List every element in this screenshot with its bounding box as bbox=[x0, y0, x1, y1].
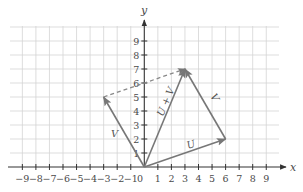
x-tick-label: 9 bbox=[263, 173, 269, 184]
x-tick-label: −6 bbox=[56, 173, 70, 184]
y-tick-label: 6 bbox=[133, 78, 139, 89]
x-tick-label: 2 bbox=[168, 173, 174, 184]
x-tick-label: −7 bbox=[42, 173, 56, 184]
x-tick-label: 1 bbox=[155, 173, 161, 184]
x-tick-label: 6 bbox=[223, 173, 229, 184]
x-tick-label: 8 bbox=[250, 173, 256, 184]
vector-addition-diagram: −9−8−7−6−5−4−3−2−1123456789123456789 x y… bbox=[0, 0, 303, 192]
x-tick-label: 7 bbox=[236, 173, 242, 184]
y-tick-label: 3 bbox=[133, 120, 139, 131]
y-tick-label: 8 bbox=[133, 50, 139, 61]
y-tick-label: 4 bbox=[133, 106, 139, 117]
x-tick-label: −9 bbox=[15, 173, 29, 184]
y-tick-label: 5 bbox=[133, 92, 139, 103]
x-tick-label: 4 bbox=[195, 173, 201, 184]
x-tick-label: 3 bbox=[182, 173, 188, 184]
x-tick-label: −1 bbox=[124, 173, 138, 184]
x-tick-label: −5 bbox=[70, 173, 84, 184]
vector-label-v-translated: V bbox=[208, 92, 222, 105]
y-tick-label: 7 bbox=[133, 64, 139, 75]
x-tick-label: −8 bbox=[29, 173, 43, 184]
origin-label: 0 bbox=[137, 173, 143, 184]
vector-v-translated-arrow bbox=[185, 69, 226, 139]
y-axis-label: y bbox=[140, 4, 148, 17]
x-tick-label: −3 bbox=[97, 173, 111, 184]
y-tick-label: 9 bbox=[133, 36, 139, 47]
x-tick-label: −4 bbox=[83, 173, 97, 184]
x-tick-label: 5 bbox=[209, 173, 215, 184]
y-tick-label: 2 bbox=[133, 134, 139, 145]
x-tick-label: −2 bbox=[110, 173, 124, 184]
tick-labels: −9−8−7−6−5−4−3−2−1123456789123456789 bbox=[15, 36, 269, 185]
x-axis-label: x bbox=[290, 161, 297, 174]
vector-label-v: V bbox=[111, 128, 120, 139]
